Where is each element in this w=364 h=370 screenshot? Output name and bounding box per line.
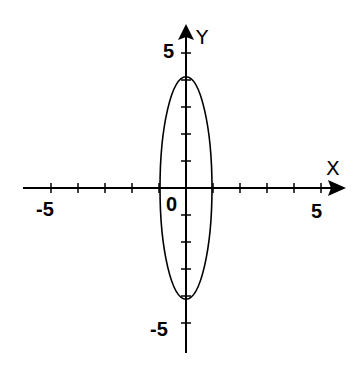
x-tick-label-5: 5 — [311, 200, 322, 222]
y-axis-label: Y — [195, 25, 209, 49]
y-tick-label-5: 5 — [163, 40, 174, 62]
x-axis-label: X — [326, 156, 340, 180]
coordinate-plot: Y X 5 -5 -5 5 0 — [0, 0, 364, 370]
x-tick-label-neg5: -5 — [36, 198, 54, 220]
y-tick-label-neg5: -5 — [150, 318, 168, 340]
origin-label: 0 — [166, 193, 177, 215]
